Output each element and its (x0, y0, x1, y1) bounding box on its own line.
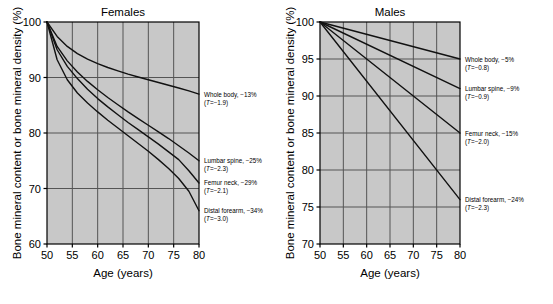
chart-title: Males (375, 6, 406, 18)
x-tick-label: 70 (407, 249, 419, 261)
x-tick-label: 55 (337, 249, 349, 261)
y-tick-label: 90 (29, 72, 41, 84)
chart-panel-males: 50556065707580707580859095100MalesAge (y… (273, 0, 553, 304)
x-tick-label: 70 (142, 249, 154, 261)
annotation-whole-body: Whole body, −5% (465, 56, 514, 64)
y-tick-label: 100 (23, 16, 41, 28)
x-axis-label: Age (years) (360, 267, 420, 279)
y-tick-label: 80 (302, 164, 314, 176)
males-chart-svg: 50556065707580707580859095100MalesAge (y… (273, 0, 553, 304)
x-tick-label: 65 (384, 249, 396, 261)
annotation-tscore-lumbar-spine: (T=−0.9) (465, 93, 489, 101)
annotation-tscore-femur-neck: (T=−2.0) (465, 138, 489, 146)
annotation-tscore-distal-forearm: (T=−3.0) (204, 215, 228, 223)
annotation-tscore-whole-body: (T=−1.9) (204, 99, 228, 107)
chart-title: Females (101, 6, 145, 18)
x-tick-label: 80 (454, 249, 466, 261)
x-tick-label: 55 (66, 249, 78, 261)
x-tick-label: 80 (193, 249, 205, 261)
x-tick-label: 60 (361, 249, 373, 261)
annotation-tscore-lumbar-spine: (T=−2.3) (204, 165, 228, 173)
x-tick-label: 50 (314, 249, 326, 261)
x-tick-label: 75 (168, 249, 180, 261)
annotation-femur-neck: Femur neck, −15% (465, 130, 518, 137)
annotation-distal-forearm: Distal forearm, −34% (204, 207, 263, 214)
y-tick-label: 70 (302, 238, 314, 250)
annotation-lumbar-spine: Lumbar spine, −9% (465, 85, 520, 93)
x-tick-label: 60 (92, 249, 104, 261)
annotation-whole-body: Whole body, −13% (204, 91, 257, 99)
x-axis-label: Age (years) (93, 267, 153, 279)
y-tick-label: 75 (302, 201, 314, 213)
annotation-tscore-whole-body: (T=−0.8) (465, 64, 489, 72)
y-tick-label: 70 (29, 183, 41, 195)
y-tick-label: 60 (29, 238, 41, 250)
females-chart-svg: 5055606570758060708090100FemalesAge (yea… (0, 0, 280, 304)
x-tick-label: 65 (117, 249, 129, 261)
y-tick-label: 90 (302, 90, 314, 102)
x-tick-label: 75 (431, 249, 443, 261)
y-tick-label: 80 (29, 127, 41, 139)
y-tick-label: 85 (302, 127, 314, 139)
y-axis-label: Bone mineral content or bone mineral den… (284, 7, 296, 260)
annotation-femur-neck: Femur neck, −29% (204, 179, 257, 186)
annotation-tscore-femur-neck: (T=−2.1) (204, 187, 228, 195)
chart-panel-females: 5055606570758060708090100FemalesAge (yea… (0, 0, 280, 304)
annotation-distal-forearm: Distal forearm, −24% (465, 196, 524, 203)
annotation-tscore-distal-forearm: (T=−2.3) (465, 204, 489, 212)
annotation-lumbar-spine: Lumbar spine, −25% (204, 157, 262, 165)
bone-density-figure: 5055606570758060708090100FemalesAge (yea… (0, 0, 553, 304)
y-axis-label: Bone mineral content or bone mineral den… (11, 7, 23, 260)
x-tick-label: 50 (41, 249, 53, 261)
y-tick-label: 100 (296, 16, 314, 28)
y-tick-label: 95 (302, 53, 314, 65)
